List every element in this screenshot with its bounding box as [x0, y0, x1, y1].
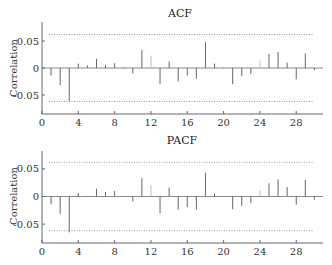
pacf-x-tick-label: 4 — [75, 246, 81, 257]
acf-y-tick-label: 0 — [33, 63, 39, 74]
acf-x-tick-label: 20 — [217, 117, 230, 128]
acf-y-tick-label: -0.05 — [13, 90, 39, 101]
acf-x-tick-label: 28 — [290, 117, 303, 128]
pacf-y-axis-label: Correlation — [8, 166, 19, 225]
pacf-y-tick-label: -0.05 — [13, 219, 39, 230]
chart-canvas: ACF Correlation 0.050-0.050481216202428 … — [0, 0, 332, 265]
acf-x-tick-label: 16 — [181, 117, 194, 128]
acf-y-axis-label: Correlation — [8, 38, 19, 97]
acf-pacf-figure: ACF Correlation 0.050-0.050481216202428 … — [0, 0, 332, 265]
pacf-title: PACF — [167, 134, 198, 147]
pacf-x-tick-label: 8 — [111, 246, 117, 257]
acf-y-tick-label: 0.05 — [17, 36, 39, 47]
pacf-x-tick-label: 24 — [254, 246, 267, 257]
pacf-x-tick-label: 28 — [290, 246, 303, 257]
acf-x-tick-label: 0 — [39, 117, 45, 128]
pacf-y-tick-label: 0.05 — [17, 163, 39, 174]
pacf-x-tick-label: 0 — [39, 246, 45, 257]
pacf-x-tick-label: 12 — [145, 246, 158, 257]
acf-panel: ACF Correlation 0.050-0.050481216202428 — [8, 7, 323, 128]
acf-x-tick-label: 24 — [254, 117, 267, 128]
acf-title: ACF — [167, 7, 192, 20]
acf-x-tick-label: 8 — [111, 117, 117, 128]
acf-x-tick-label: 4 — [75, 117, 81, 128]
pacf-y-tick-label: 0 — [33, 191, 39, 202]
pacf-x-tick-label: 20 — [217, 246, 230, 257]
pacf-x-tick-label: 16 — [181, 246, 194, 257]
acf-x-tick-label: 12 — [145, 117, 158, 128]
pacf-panel: PACF Correlation 0.050-0.050481216202428 — [8, 134, 323, 257]
